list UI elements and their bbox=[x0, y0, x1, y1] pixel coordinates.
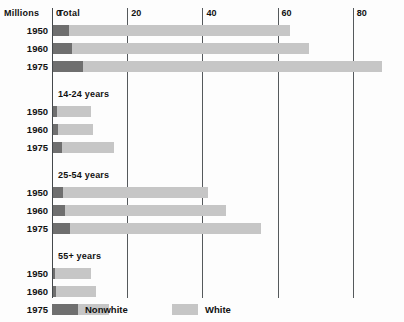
bar-row: 1950 bbox=[52, 25, 404, 36]
bar-row: 1975 bbox=[52, 223, 404, 234]
group-title: 14-24 years bbox=[58, 89, 109, 99]
bar-row-label: 1975 bbox=[4, 61, 48, 72]
bar-segment-white bbox=[72, 43, 309, 54]
bar-row: 1950 bbox=[52, 268, 404, 279]
bar-segment-nonwhite bbox=[53, 61, 83, 72]
legend-label: Nonwhite bbox=[85, 304, 128, 315]
group-title: 25-54 years bbox=[58, 170, 109, 180]
bar-row-label: 1950 bbox=[4, 106, 48, 117]
bar-row: 1960 bbox=[52, 43, 404, 54]
bar-row-label: 1950 bbox=[4, 268, 48, 279]
bar-segment-white bbox=[57, 106, 91, 117]
bar-segment-white bbox=[58, 124, 93, 135]
bar-segment-nonwhite bbox=[53, 25, 69, 36]
bar-row: 1960 bbox=[52, 124, 404, 135]
bar-segment-white bbox=[69, 25, 290, 36]
bar-segment-white bbox=[55, 268, 91, 279]
legend-item-white[interactable]: White bbox=[172, 303, 231, 316]
bar-row-label: 1960 bbox=[4, 286, 48, 297]
legend-swatch-icon bbox=[172, 304, 198, 315]
legend-item-nonwhite[interactable]: Nonwhite bbox=[52, 303, 128, 316]
bar-row-label: 1960 bbox=[4, 124, 48, 135]
bar-row: 1950 bbox=[52, 187, 404, 198]
bar-segment-white bbox=[83, 61, 382, 72]
bar-segment-nonwhite bbox=[53, 223, 70, 234]
bar-segment-nonwhite bbox=[53, 142, 62, 153]
bar-row-label: 1950 bbox=[4, 187, 48, 198]
bar-row-label: 1975 bbox=[4, 304, 48, 315]
bar-row-label: 1960 bbox=[4, 43, 48, 54]
bar-row-label: 1975 bbox=[4, 223, 48, 234]
axis-unit-label: Millions bbox=[4, 8, 39, 18]
bar-row-label: 1975 bbox=[4, 142, 48, 153]
group-title: 55+ years bbox=[58, 251, 101, 261]
legend-label: White bbox=[205, 304, 231, 315]
bar-chart: Millions 020406080 Total19501960197514-2… bbox=[0, 0, 404, 322]
bar-segment-white bbox=[70, 223, 261, 234]
bar-segment-nonwhite bbox=[53, 205, 65, 216]
legend-swatch-icon bbox=[52, 304, 78, 315]
plot-area: Total19501960197514-24 years195019601975… bbox=[52, 8, 404, 298]
bar-segment-white bbox=[56, 286, 96, 297]
bar-row: 1975 bbox=[52, 61, 404, 72]
bar-segment-nonwhite bbox=[53, 43, 72, 54]
bar-row: 1950 bbox=[52, 106, 404, 117]
bar-row-label: 1950 bbox=[4, 25, 48, 36]
bar-segment-white bbox=[63, 187, 208, 198]
bar-segment-white bbox=[62, 142, 114, 153]
bar-row: 1960 bbox=[52, 286, 404, 297]
group-title: Total bbox=[58, 8, 80, 18]
bar-row: 1960 bbox=[52, 205, 404, 216]
bar-segment-white bbox=[65, 205, 226, 216]
bar-row-label: 1960 bbox=[4, 205, 48, 216]
bar-row: 1975 bbox=[52, 142, 404, 153]
bar-segment-nonwhite bbox=[53, 187, 63, 198]
